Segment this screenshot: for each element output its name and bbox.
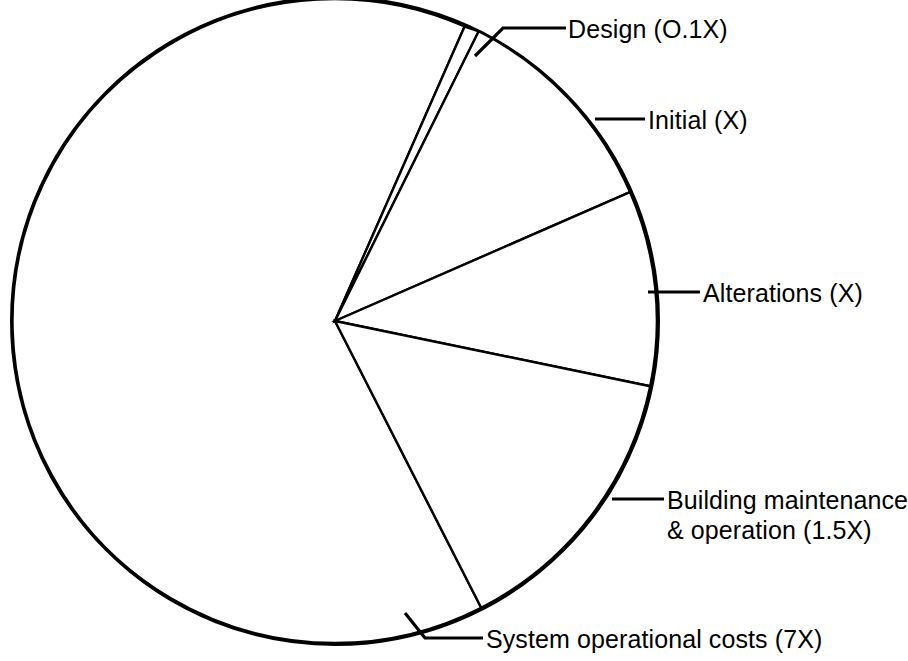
label-building-maintenance: Building maintenance & operation (1.5X) [667,485,908,545]
label-initial: Initial (X) [648,105,748,135]
label-alterations: Alterations (X) [703,278,863,308]
label-system-operational-costs: System operational costs (7X) [486,624,822,654]
label-building-maintenance-line1: Building maintenance [667,486,908,514]
label-design: Design (O.1X) [568,14,728,44]
label-building-maintenance-line2: & operation (1.5X) [667,515,908,545]
